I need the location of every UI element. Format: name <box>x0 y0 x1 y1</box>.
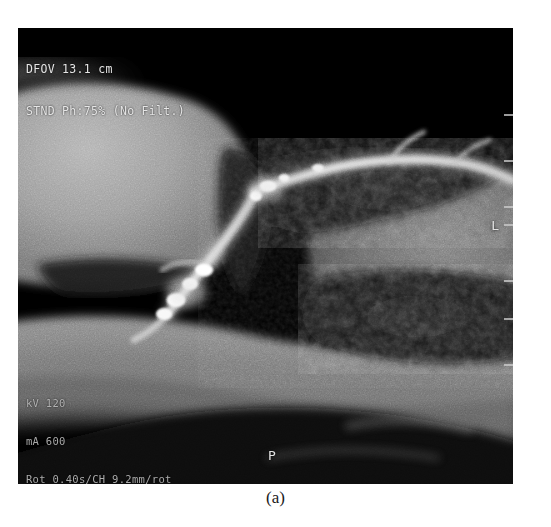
ct-scan-image: DFOV 13.1 cm STND Ph:75% (No Filt.) kV 1… <box>18 28 513 484</box>
figure-caption: (a) <box>0 488 551 508</box>
ct-scan-canvas <box>18 28 513 484</box>
figure-root: DFOV 13.1 cm STND Ph:75% (No Filt.) kV 1… <box>0 0 551 527</box>
